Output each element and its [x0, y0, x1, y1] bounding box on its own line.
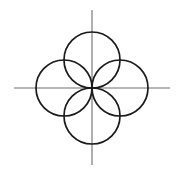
- rosette-figure: [0, 0, 184, 169]
- figure-container: [0, 0, 184, 169]
